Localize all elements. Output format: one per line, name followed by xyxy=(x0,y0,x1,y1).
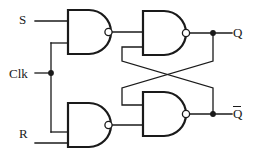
label-r: R xyxy=(19,127,28,140)
flipflop-schematic xyxy=(0,0,263,155)
nand-gate-set xyxy=(68,10,112,54)
q-junction-dot xyxy=(210,30,216,36)
nand-gate-q-bubble xyxy=(182,29,189,36)
label-s: S xyxy=(19,13,26,26)
q-bar-junction-dot xyxy=(210,111,216,117)
circuit-diagram-canvas: S Clk R Q Q xyxy=(0,0,263,155)
nand-gate-q-bar-body xyxy=(143,92,186,136)
label-q-bar-text: Q xyxy=(233,106,242,121)
label-q-bar: Q xyxy=(233,107,242,120)
nand-gate-q xyxy=(143,11,190,55)
clk-junction-dot xyxy=(48,70,54,76)
nand-gate-q-bar-bubble xyxy=(182,110,189,117)
label-q: Q xyxy=(233,26,242,39)
nand-gate-reset xyxy=(68,103,112,147)
overline-bar xyxy=(233,106,241,107)
label-clk: Clk xyxy=(9,67,28,80)
nand-gate-reset-bubble xyxy=(105,121,112,128)
nand-gate-q-body xyxy=(143,11,186,55)
nand-gate-set-bubble xyxy=(105,28,112,35)
wire-group xyxy=(35,21,232,143)
nand-gate-q-bar xyxy=(143,92,190,136)
